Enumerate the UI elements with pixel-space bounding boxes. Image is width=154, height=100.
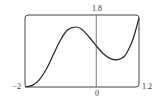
function-plot: 1.8 −2 0 1.2 [0, 0, 154, 100]
curve [25, 18, 139, 87]
x-left-label: −2 [12, 82, 21, 91]
y-top-label: 1.8 [92, 4, 102, 13]
x-zero-label: 0 [95, 89, 99, 98]
x-right-label: 1.2 [142, 82, 152, 91]
